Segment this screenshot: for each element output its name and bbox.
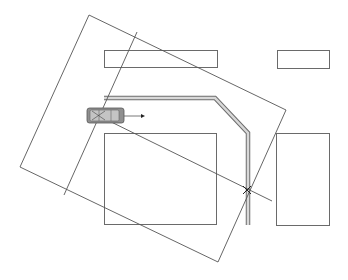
building-bottom-right xyxy=(277,134,330,226)
arrow-head xyxy=(141,114,145,118)
wall-fill xyxy=(104,98,248,225)
diagram-canvas xyxy=(0,0,348,280)
direction-arrow-icon xyxy=(124,114,145,118)
parking-scene-diagram xyxy=(0,0,348,280)
wall xyxy=(104,98,248,225)
car-icon xyxy=(87,108,124,123)
wall-outline xyxy=(104,98,248,225)
building-top-right xyxy=(278,51,330,69)
building-bottom-left xyxy=(105,134,217,225)
building-top-left xyxy=(105,51,218,68)
